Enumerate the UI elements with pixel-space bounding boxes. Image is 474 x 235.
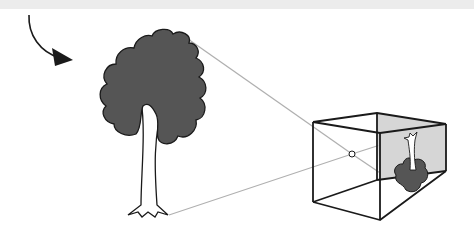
curved-arrow-icon [29, 15, 73, 66]
pinhole-camera-box [313, 113, 446, 220]
pinhole [349, 151, 355, 157]
tree [100, 29, 206, 217]
pinhole-camera-diagram [0, 0, 474, 235]
